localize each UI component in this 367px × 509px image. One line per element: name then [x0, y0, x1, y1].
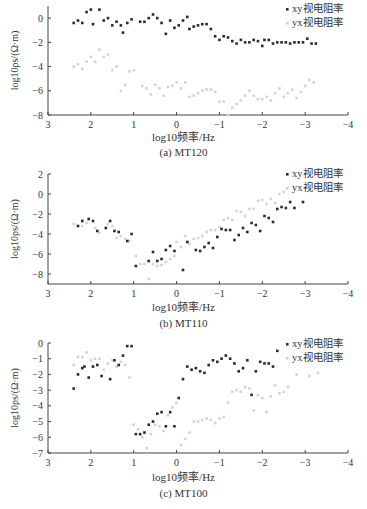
xy-data-point — [276, 350, 279, 353]
yx-data-point — [107, 53, 110, 56]
yx-data-point — [235, 210, 238, 213]
yx-data-point — [278, 392, 281, 395]
xy-data-point — [169, 411, 172, 414]
yx-data-point — [240, 390, 243, 393]
yx-data-point — [98, 357, 101, 360]
xy-data-point — [186, 241, 189, 244]
yx-data-point — [90, 359, 93, 362]
xy-data-point — [186, 365, 189, 368]
yx-data-point — [180, 444, 183, 447]
y-tick-label: −6 — [32, 249, 43, 260]
xy-data-point — [130, 233, 133, 236]
xy-data-point — [87, 376, 90, 379]
yx-data-point — [312, 81, 315, 84]
xy-data-point — [156, 17, 159, 20]
yx-data-point — [270, 99, 273, 102]
yx-data-point — [214, 422, 217, 425]
yx-data-point — [147, 278, 150, 281]
yx-data-point — [132, 423, 135, 426]
xy-data-point — [220, 228, 223, 231]
xy-data-point — [160, 22, 163, 25]
y-axis-label: log10ρs/(Ω·m) — [9, 31, 21, 91]
yx-data-point — [252, 208, 255, 211]
xy-data-point — [235, 42, 238, 45]
yx-data-point — [278, 87, 281, 90]
xy-data-point — [214, 35, 217, 38]
xy-data-point — [227, 36, 230, 39]
yx-data-point — [244, 94, 247, 97]
yx-data-point — [184, 235, 187, 238]
xy-data-point — [81, 22, 84, 25]
xy-data-point — [188, 28, 191, 31]
xy-data-point — [100, 375, 103, 378]
yx-data-point — [261, 199, 264, 202]
xy-data-point — [222, 35, 225, 38]
yx-data-point — [210, 229, 213, 232]
yx-data-point — [287, 386, 290, 389]
yx-data-point — [214, 91, 217, 94]
yx-data-point — [169, 258, 172, 261]
xy-data-point — [244, 41, 247, 44]
xy-data-point — [156, 260, 159, 263]
xy-data-point — [130, 345, 133, 348]
xy-data-point — [231, 40, 234, 43]
xy-data-point — [302, 41, 305, 44]
yx-data-point — [252, 409, 255, 412]
xy-data-point — [255, 370, 258, 373]
yx-data-point — [102, 368, 105, 371]
legend-item-xy: xy视电阻率 — [292, 2, 343, 14]
yx-data-point — [300, 91, 303, 94]
xy-data-point — [72, 387, 75, 390]
yx-data-point — [90, 56, 93, 59]
y-tick-label: −3 — [32, 385, 43, 396]
x-tick-label: 3 — [46, 457, 51, 468]
xy-data-point — [229, 229, 232, 232]
xy-data-point — [77, 19, 80, 22]
xy-data-point — [276, 208, 279, 211]
y-tick-label: −2 — [32, 209, 43, 220]
y-axis-label: log10ρs/(Ω·m) — [9, 199, 21, 259]
yx-data-point — [210, 419, 213, 422]
yx-data-point — [205, 231, 208, 234]
xy-data-point — [173, 425, 176, 428]
xy-data-point — [130, 18, 133, 21]
yx-data-point — [165, 261, 168, 264]
yx-data-point — [218, 100, 221, 103]
chart-caption: (a) MT120 — [0, 146, 367, 158]
yx-data-point — [135, 255, 138, 258]
xy-data-point — [272, 221, 275, 224]
xy-data-point — [203, 246, 206, 249]
xy-data-point — [152, 251, 155, 254]
xy-data-point — [218, 39, 221, 42]
xy-data-point — [143, 20, 146, 23]
xy-data-point — [156, 412, 159, 415]
yx-data-point — [180, 87, 183, 90]
legend-marker-yx — [286, 22, 289, 25]
xy-data-point — [107, 17, 110, 20]
yx-data-point — [257, 98, 260, 101]
xy-data-point — [85, 11, 88, 14]
xy-data-point — [152, 13, 155, 16]
xy-data-point — [302, 201, 305, 204]
xy-data-point — [210, 28, 213, 31]
y-tick-label: 0 — [38, 13, 43, 24]
yx-data-point — [173, 255, 176, 258]
yx-data-point — [274, 202, 277, 205]
xy-data-point — [192, 25, 195, 28]
xy-data-point — [240, 39, 243, 42]
yx-data-point — [227, 401, 230, 404]
xy-data-point — [177, 397, 180, 400]
x-tick-label: −3 — [300, 457, 311, 468]
yx-data-point — [98, 48, 101, 51]
xy-data-point — [280, 206, 283, 209]
yx-data-point — [94, 357, 97, 360]
xy-data-point — [246, 359, 249, 362]
yx-data-point — [274, 92, 277, 95]
yx-data-point — [124, 364, 127, 367]
legend-item-xy: xy视电阻率 — [292, 167, 343, 179]
yx-data-point — [222, 100, 225, 103]
xy-data-point — [252, 39, 255, 42]
yx-data-point — [270, 395, 273, 398]
xy-data-point — [126, 22, 129, 25]
xy-data-point — [289, 42, 292, 45]
